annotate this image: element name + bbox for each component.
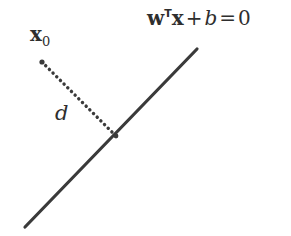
equation-vector-x: x <box>172 6 184 30</box>
equation-vector-w: w <box>147 6 164 30</box>
point-x0-label: x0 <box>30 24 50 48</box>
hyperplane-line <box>25 49 197 227</box>
point-foot-of-perpendicular-marker <box>114 134 119 139</box>
hyperplane-equation-label: wTx+b=0 <box>147 8 251 28</box>
hyperplane-distance-figure: wTx+b=0 x0 d <box>0 0 291 236</box>
equation-right-hand-side: 0 <box>238 6 251 30</box>
distance-dotted-segment <box>42 62 116 136</box>
point-x0-marker <box>39 59 44 64</box>
point-x0-subscript: 0 <box>42 34 50 49</box>
equation-plus-operator: + <box>184 6 205 30</box>
equation-transpose-symbol: T <box>164 7 172 20</box>
equation-equals-operator: = <box>217 6 238 30</box>
equation-bias-term: b <box>204 6 217 30</box>
point-x0-symbol: x <box>30 22 42 46</box>
distance-label: d <box>55 103 68 124</box>
